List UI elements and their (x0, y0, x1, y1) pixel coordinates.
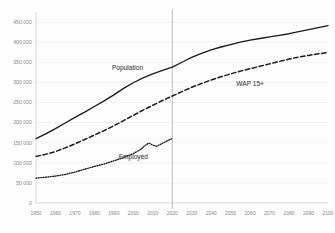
y-axis-tick-label: 150 000 (13, 140, 32, 146)
y-axis-tick-label: 200 000 (13, 119, 32, 125)
y-axis-tick-label: 450 000 (13, 19, 32, 25)
y-axis-tick-label: 250 000 (13, 99, 32, 105)
chart-canvas: 050 000100 000150 000200 000250 000300 0… (0, 0, 335, 233)
x-axis-tick-label: 2070 (264, 210, 275, 216)
y-axis-tick-label: 50 000 (16, 180, 32, 186)
y-axis-tick-label: 0 (29, 200, 32, 206)
x-axis-tick-label: 2080 (284, 210, 295, 216)
y-axis-tick-label: 100 000 (13, 160, 32, 166)
x-axis-tick-label: 1990 (108, 210, 119, 216)
series-annotations-group: PopulationWAP 15+Employed (112, 64, 264, 160)
x-axis-tick-label: 2040 (206, 210, 217, 216)
series-group (36, 26, 328, 178)
y-axis-tick-label: 300 000 (13, 79, 32, 85)
series-line-employed (36, 139, 172, 178)
x-axis-tick-label: 2030 (186, 210, 197, 216)
population-projection-chart: 050 000100 000150 000200 000250 000300 0… (0, 0, 335, 233)
x-axis-tick-label: 2000 (128, 210, 139, 216)
x-axis-tick-labels: 1950196019701980199020002010202020302040… (30, 210, 333, 216)
x-axis-tick-label: 1960 (50, 210, 61, 216)
series-annotation-employed: Employed (119, 153, 149, 161)
series-line-wap-15 (36, 53, 328, 157)
axes-group (36, 12, 328, 203)
y-axis-tick-labels: 050 000100 000150 000200 000250 000300 0… (13, 19, 32, 206)
x-axis-tick-label: 2020 (167, 210, 178, 216)
y-axis-tick-label: 400 000 (13, 39, 32, 45)
x-axis-tick-label: 2100 (322, 210, 333, 216)
x-axis-tick-label: 2050 (225, 210, 236, 216)
gridlines-group (36, 22, 328, 203)
x-axis-tick-label: 1970 (69, 210, 80, 216)
x-axis-tick-label: 1950 (30, 210, 41, 216)
x-axis-tick-label: 2060 (245, 210, 256, 216)
x-axis-tick-label: 2090 (303, 210, 314, 216)
x-axis-tick-label: 1980 (89, 210, 100, 216)
series-annotation-population: Population (112, 64, 143, 72)
y-axis-tick-label: 350 000 (13, 59, 32, 65)
series-annotation-wap-15: WAP 15+ (236, 80, 264, 87)
x-axis-tick-label: 2010 (147, 210, 158, 216)
